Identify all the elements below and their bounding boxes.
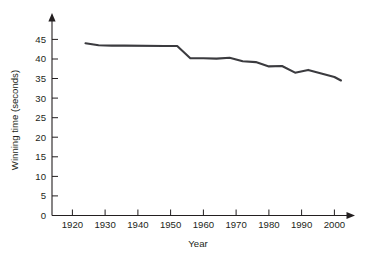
y-tick-label-40: 40 [35,53,46,64]
line-chart: 0 5 10 15 20 25 30 35 40 45 1920 [0,0,368,261]
x-tick-label-2000: 2000 [324,219,345,230]
y-tick-label-35: 35 [35,73,46,84]
x-tick-label-1930: 1930 [94,219,115,230]
chart-canvas: 0 5 10 15 20 25 30 35 40 45 1920 [0,0,368,261]
x-tick-label-1960: 1960 [193,219,214,230]
x-tick-group: 1920 1930 1940 1950 1960 1970 1980 1990 … [62,210,345,231]
x-tick-label-1920: 1920 [62,219,83,230]
data-series-line [86,43,341,80]
y-tick-label-25: 25 [35,112,46,123]
y-axis-title: Winning time (seconds) [9,70,20,170]
x-tick-label-1940: 1940 [127,219,148,230]
x-tick-label-1970: 1970 [225,219,246,230]
y-tick-label-20: 20 [35,132,46,143]
y-tick-label-15: 15 [35,151,46,162]
y-tick-label-5: 5 [41,190,46,201]
x-tick-label-1990: 1990 [291,219,312,230]
x-tick-label-1950: 1950 [160,219,181,230]
y-tick-group: 0 5 10 15 20 25 30 35 40 45 [35,34,58,221]
y-tick-label-10: 10 [35,171,46,182]
y-tick-label-45: 45 [35,34,46,45]
y-axis-arrow-icon [48,13,55,22]
x-axis-arrow-icon [347,212,356,219]
y-axis [48,13,55,216]
x-tick-label-1980: 1980 [258,219,279,230]
y-tick-label-0: 0 [41,210,46,221]
x-axis-title: Year [188,238,208,249]
y-tick-label-30: 30 [35,93,46,104]
